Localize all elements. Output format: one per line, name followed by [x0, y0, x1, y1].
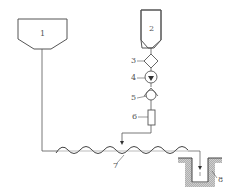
label-hopper-2: 2	[149, 25, 154, 33]
hopper-1	[18, 19, 67, 151]
label-pit-8: 8	[218, 176, 223, 184]
diagram-svg	[0, 0, 237, 195]
diamond-component-3	[137, 54, 158, 71]
label-component-5: 5	[131, 94, 136, 102]
diagram-canvas: 1 2 3 4 5 6 7 8	[0, 0, 237, 195]
label-screw-7: 7	[113, 162, 118, 170]
label-component-3: 3	[131, 57, 136, 65]
label-hopper-1: 1	[40, 30, 45, 38]
label-component-6: 6	[132, 113, 137, 121]
label-component-4: 4	[131, 74, 136, 82]
filter-component-6	[120, 110, 155, 145]
valve-component-4	[137, 71, 157, 87]
pump-component-5	[137, 88, 158, 110]
